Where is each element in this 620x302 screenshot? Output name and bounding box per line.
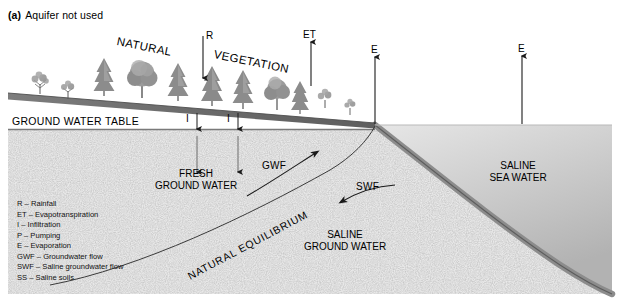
legend-item: SS – Saline soils — [17, 273, 123, 284]
label-fresh-line-2: GROUND WATER — [155, 180, 237, 192]
legend: R – Rainfall ET – Evapotranspiration I –… — [17, 199, 123, 283]
label-evaporation-sea-symbol: E — [518, 43, 525, 55]
label-fresh-line-1: FRESH — [155, 168, 237, 180]
panel-title: (a)Aquifer not used — [8, 9, 103, 21]
legend-item: GWF – Groundwater flow — [17, 252, 123, 263]
label-evaporation-coast-symbol: E — [371, 44, 378, 56]
label-evapotranspiration-symbol: ET — [303, 29, 316, 41]
panel-title-text: Aquifer not used — [25, 9, 103, 21]
label-rainfall-symbol: R — [206, 30, 213, 42]
label-fresh-ground-water: FRESH GROUND WATER — [155, 168, 237, 191]
label-saline-gw-line-1: SALINE — [304, 229, 386, 241]
legend-item: P – Pumping — [17, 231, 123, 242]
legend-item: R – Rainfall — [17, 199, 123, 210]
panel-tag: (a) — [8, 9, 21, 21]
vegetation-group — [32, 58, 356, 115]
label-ground-water-table: GROUND WATER TABLE — [12, 116, 139, 128]
label-swf: SWF — [356, 181, 379, 193]
legend-item: SWF – Saline groundwater flow — [17, 262, 123, 273]
label-gwf: GWF — [262, 160, 286, 172]
legend-item: ET – Evapotranspiration — [17, 210, 123, 221]
label-saline-sea-water: SALINE SEA WATER — [489, 160, 546, 183]
legend-item: I – Infiltration — [17, 220, 123, 231]
figure-panel-a: (a)Aquifer not used NATURAL VEGETATION G… — [0, 0, 620, 302]
label-infiltration-2-symbol: I — [227, 113, 230, 125]
label-infiltration-1-symbol: I — [186, 113, 189, 125]
label-saline-sea-line-2: SEA WATER — [489, 172, 546, 184]
label-saline-ground-water: SALINE GROUND WATER — [304, 229, 386, 252]
label-saline-gw-line-2: GROUND WATER — [304, 241, 386, 253]
legend-item: E – Evaporation — [17, 241, 123, 252]
label-saline-sea-line-1: SALINE — [489, 160, 546, 172]
